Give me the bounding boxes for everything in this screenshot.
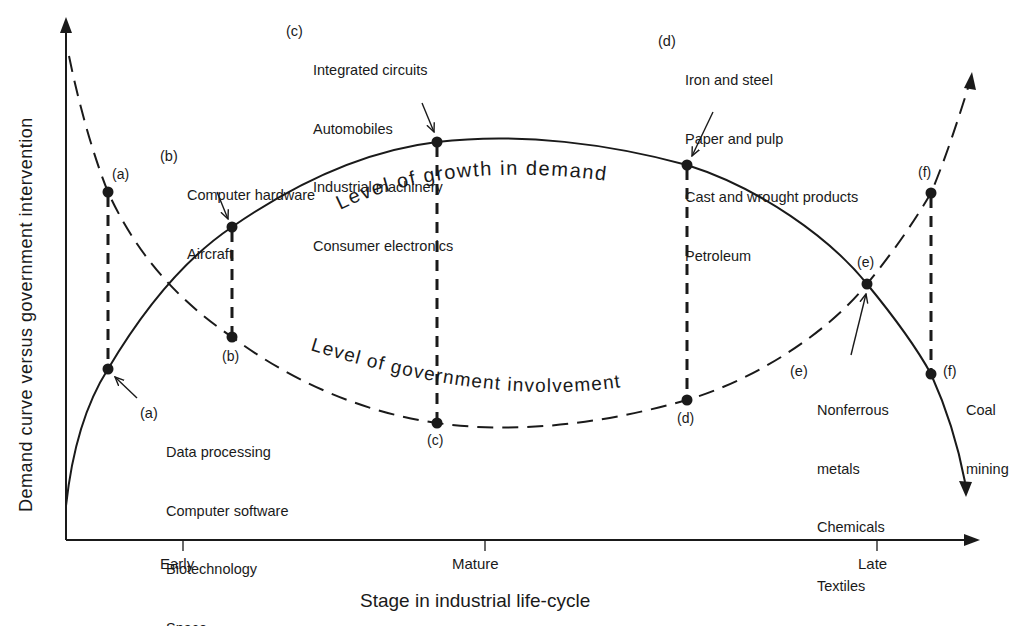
- annotation-c-line: Automobiles: [313, 120, 453, 140]
- x-tick-mature: Mature: [452, 555, 499, 572]
- annotation-a-line: Space: [166, 619, 296, 626]
- x-axis-label: Stage in industrial life-cycle: [360, 590, 590, 612]
- marker-f: (f): [918, 164, 931, 180]
- annotation-b: (b) Computer hardware Aircraft: [160, 147, 168, 206]
- annotation-d-line: Iron and steel: [685, 71, 858, 91]
- annotation-b-line: Aircraft: [187, 245, 315, 265]
- annotation-e-line: metals: [817, 460, 889, 480]
- annotation-f-line: Coal: [966, 401, 1009, 421]
- point-b-government: [227, 332, 238, 343]
- government-curve-arrow-icon: [964, 72, 976, 90]
- annotation-a-line: Biotechnology: [166, 560, 296, 580]
- annotation-c: (c) Integrated circuits Automobiles Indu…: [286, 22, 294, 81]
- annotation-d-tag: (d): [658, 32, 676, 52]
- annotation-a-tag: (a): [140, 404, 158, 424]
- annotation-f: (f) Coal mining: [943, 362, 951, 421]
- government-curve-label: Level of government involvement: [309, 334, 622, 396]
- point-c-government: [432, 418, 443, 429]
- arrow-a-icon: [115, 377, 137, 398]
- point-f-government: [926, 188, 937, 199]
- annotation-b-tag: (b): [160, 147, 178, 167]
- y-axis-arrow-icon: [60, 17, 72, 33]
- annotation-e: (e) Nonferrous metals Chemicals Textiles…: [790, 362, 798, 421]
- annotation-e-tag: (e): [790, 362, 808, 382]
- point-e-intersection: [862, 279, 873, 290]
- annotation-c-line: Integrated circuits: [313, 61, 453, 81]
- annotation-d: (d) Iron and steel Paper and pulp Cast a…: [658, 32, 666, 91]
- annotation-f-line: mining: [966, 460, 1009, 480]
- point-d-government: [682, 395, 693, 406]
- annotation-c-line: Industrial machinery: [313, 178, 453, 198]
- marker-b: (b): [222, 348, 239, 364]
- marker-c: (c): [427, 432, 443, 448]
- annotation-d-line: Petroleum: [685, 247, 858, 267]
- marker-e: (e): [857, 254, 874, 270]
- y-axis-label: Demand curve versus government intervent…: [16, 117, 37, 512]
- y-axis: [60, 17, 72, 540]
- annotation-d-line: Cast and wrought products: [685, 188, 858, 208]
- marker-a: (a): [112, 166, 129, 182]
- annotation-c-tag: (c): [286, 22, 303, 42]
- annotation-d-line: Paper and pulp: [685, 130, 858, 150]
- annotation-e-line: Nonferrous: [817, 401, 889, 421]
- annotation-b-line: Computer hardware: [187, 186, 315, 206]
- x-axis-arrow-icon: [964, 534, 980, 546]
- marker-d: (d): [677, 410, 694, 426]
- annotation-a-line: Computer software: [166, 502, 296, 522]
- annotation-a: (a) Data processing Computer software Bi…: [140, 404, 148, 463]
- point-f-demand: [926, 369, 937, 380]
- point-a-government: [103, 187, 114, 198]
- annotation-f-tag: (f): [943, 362, 957, 382]
- annotation-e-line: Textiles: [817, 577, 889, 597]
- annotation-a-line: Data processing: [166, 443, 296, 463]
- annotation-c-line: Consumer electronics: [313, 237, 453, 257]
- annotation-e-line: Chemicals: [817, 518, 889, 538]
- point-a-demand: [103, 364, 114, 375]
